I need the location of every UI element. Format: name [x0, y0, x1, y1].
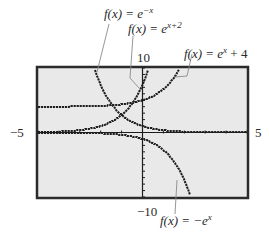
leader-f1 — [97, 24, 109, 72]
label-f1-exp: −x — [143, 5, 153, 15]
x-max-label: 5 — [255, 125, 262, 140]
label-f4-exp: x — [207, 212, 212, 222]
label-f3-tail: + 4 — [227, 46, 248, 61]
x-min-label: −5 — [10, 125, 24, 140]
y-min-label: −10 — [137, 204, 157, 219]
label-f2: f(x) = ex+2 — [128, 20, 182, 36]
y-max-label: 10 — [137, 50, 150, 65]
label-f3: f(x) = ex + 4 — [184, 45, 248, 61]
label-f3-base: f(x) = e — [184, 46, 223, 61]
label-f2-exp: x+2 — [166, 20, 182, 30]
label-f2-base: f(x) = e — [128, 21, 167, 36]
label-f4-base: f(x) = −e — [160, 213, 208, 228]
label-f1: f(x) = e−x — [104, 5, 153, 21]
label-f1-base: f(x) = e — [104, 6, 143, 21]
label-f4: f(x) = −ex — [160, 212, 212, 228]
graphing-calculator-figure: −5 5 10 −10 f(x) = e−x f(x) = ex+2 f(x) … — [0, 0, 269, 244]
